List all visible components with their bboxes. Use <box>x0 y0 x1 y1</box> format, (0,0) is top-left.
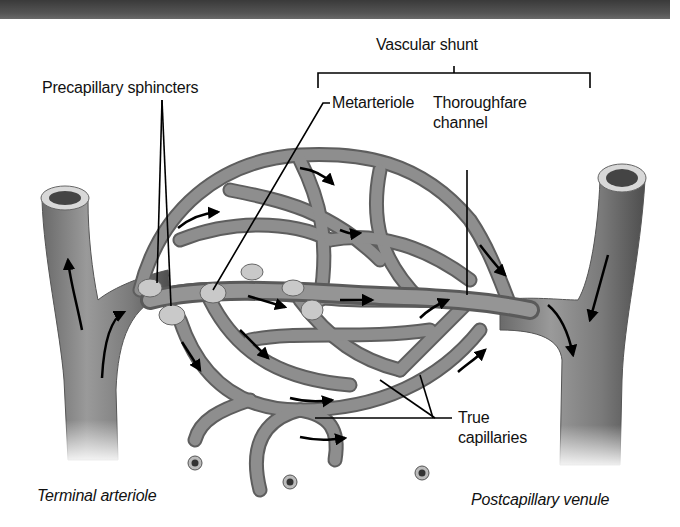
label-precapillary-sphincters: Precapillary sphincters <box>42 79 198 97</box>
label-thoroughfare-channel-line2: channel <box>433 114 488 132</box>
label-postcapillary-venule: Postcapillary venule <box>471 491 609 509</box>
capillary-open-ends <box>188 456 429 489</box>
label-terminal-arteriole: Terminal arteriole <box>37 487 156 505</box>
terminal-arteriole-vessel <box>41 186 170 465</box>
label-metarteriole: Metarteriole <box>332 94 414 112</box>
label-true-capillaries-line1: True <box>458 409 490 427</box>
label-thoroughfare-channel-line1: Thoroughfare <box>433 94 527 112</box>
label-true-capillaries-line2: capillaries <box>458 429 527 447</box>
label-vascular-shunt: Vascular shunt <box>376 36 478 54</box>
